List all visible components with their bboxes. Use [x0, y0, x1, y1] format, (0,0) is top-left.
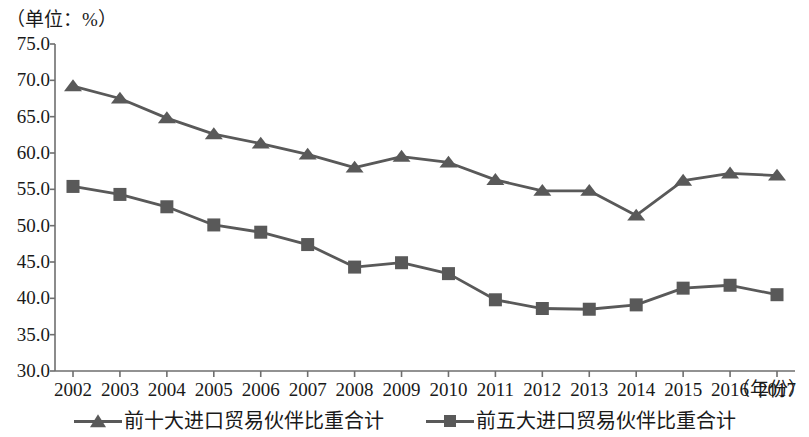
chart-plot-svg — [0, 0, 809, 437]
data-point-marker-square — [395, 256, 408, 269]
data-point-marker-square — [583, 303, 596, 316]
data-point-marker-square — [113, 188, 126, 201]
legend-item-2[interactable]: 前五大进口贸易伙伴比重合计 — [426, 410, 736, 432]
data-point-marker-square — [348, 261, 361, 274]
legend-swatch-square — [426, 411, 474, 431]
square-icon — [444, 415, 456, 427]
series-1 — [64, 79, 786, 220]
data-point-marker-square — [254, 226, 267, 239]
data-point-marker-square — [442, 267, 455, 280]
legend-item-1[interactable]: 前十大进口贸易伙伴比重合计 — [74, 410, 384, 432]
legend-item-label: 前五大进口贸易伙伴比重合计 — [474, 410, 736, 432]
data-point-marker-square — [67, 180, 80, 193]
data-point-marker-square — [207, 218, 220, 231]
x-axis-title: （年份） — [731, 378, 807, 402]
data-point-marker-triangle — [158, 111, 176, 123]
series-line — [73, 186, 777, 309]
x-axis-tick-labels: 2002200320042005200620072008200920102011… — [0, 378, 809, 404]
data-point-marker-triangle — [64, 79, 82, 91]
chart-legend: 前十大进口贸易伙伴比重合计前五大进口贸易伙伴比重合计 — [0, 404, 809, 437]
legend-swatch-triangle — [74, 411, 122, 431]
data-point-marker-square — [724, 279, 737, 292]
data-point-marker-square — [677, 282, 690, 295]
legend-item-label: 前十大进口贸易伙伴比重合计 — [122, 410, 384, 432]
data-point-marker-square — [489, 293, 502, 306]
import-partner-share-line-chart: （单位：%） 75.070.065.060.055.050.045.040.03… — [0, 0, 809, 437]
series-line — [73, 86, 777, 215]
data-point-marker-square — [536, 302, 549, 315]
data-point-marker-triangle — [393, 150, 411, 162]
data-point-marker-square — [771, 288, 784, 301]
data-point-marker-square — [301, 238, 314, 251]
data-point-marker-square — [630, 298, 643, 311]
triangle-icon — [90, 414, 106, 427]
series-2 — [67, 180, 784, 316]
data-point-marker-square — [160, 200, 173, 213]
